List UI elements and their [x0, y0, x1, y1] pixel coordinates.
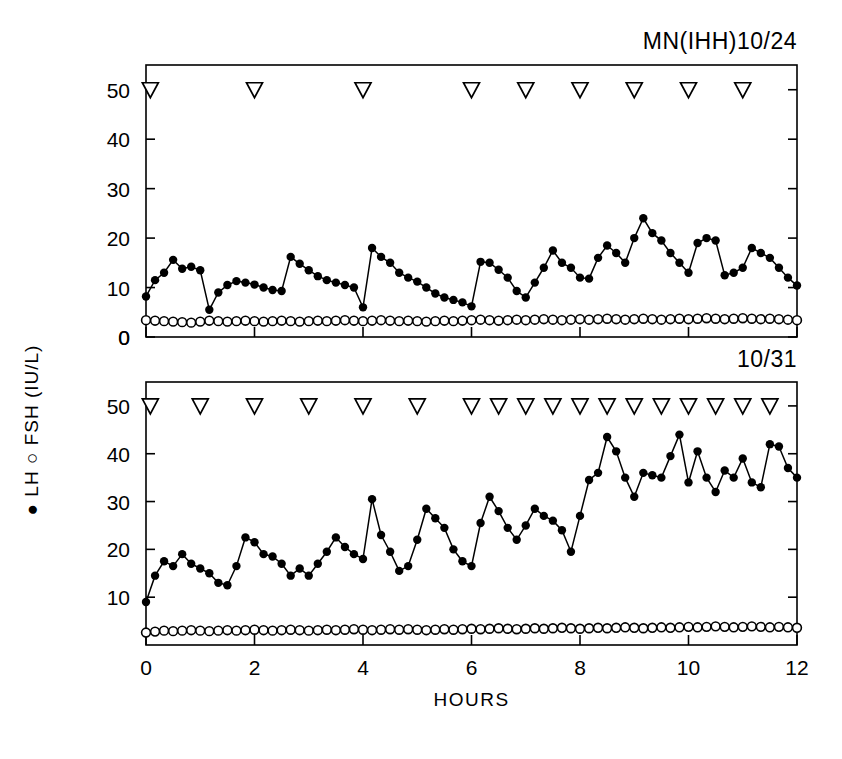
- fsh-data-point: [331, 316, 340, 325]
- lh-data-point: [431, 514, 439, 522]
- fsh-data-point: [702, 314, 711, 323]
- fsh-data-point: [160, 626, 169, 635]
- fsh-data-point: [223, 626, 232, 635]
- y-tick-label-zero: 0: [118, 326, 130, 349]
- lh-data-point: [142, 292, 150, 300]
- lh-data-point: [693, 447, 701, 455]
- fsh-data-point: [422, 626, 431, 635]
- lh-data-point: [702, 234, 710, 242]
- lh-data-point: [522, 293, 530, 301]
- fsh-data-point: [386, 625, 395, 634]
- pulse-marker-triangle: [142, 399, 158, 414]
- fsh-data-point: [359, 317, 368, 326]
- pulse-marker-triangle: [355, 399, 371, 414]
- fsh-data-point: [558, 623, 567, 632]
- lh-data-point: [395, 269, 403, 277]
- fsh-data-point: [304, 317, 313, 326]
- fsh-data-point: [702, 622, 711, 631]
- lh-data-point: [305, 266, 313, 274]
- fsh-data-point: [585, 315, 594, 324]
- lh-data-point: [766, 254, 774, 262]
- fsh-data-point: [476, 315, 485, 324]
- lh-data-point: [395, 567, 403, 575]
- lh-data-point: [485, 493, 493, 501]
- lh-data-point: [449, 296, 457, 304]
- fsh-data-point: [485, 316, 494, 325]
- fsh-data-point: [657, 623, 666, 632]
- x-tick-label: 12: [785, 656, 808, 679]
- lh-data-point: [531, 505, 539, 513]
- lh-data-point: [612, 447, 620, 455]
- lh-data-point: [268, 286, 276, 294]
- fsh-data-point: [404, 316, 413, 325]
- lh-data-point: [748, 244, 756, 252]
- fsh-data-point: [313, 316, 322, 325]
- lh-data-point: [295, 564, 303, 572]
- x-tick-label: 10: [677, 656, 700, 679]
- lh-data-point: [223, 281, 231, 289]
- lh-legend-text: LH: [21, 464, 42, 497]
- lh-data-point: [729, 269, 737, 277]
- y-tick-label: 40: [107, 128, 130, 151]
- fsh-data-point: [567, 315, 576, 324]
- lh-data-point: [503, 273, 511, 281]
- fsh-data-point: [377, 316, 386, 325]
- lh-data-point: [214, 579, 222, 587]
- fsh-data-point: [395, 317, 404, 326]
- lh-data-point: [151, 571, 159, 579]
- lh-data-point: [404, 562, 412, 570]
- fsh-data-point: [784, 623, 793, 632]
- pulse-marker-triangle: [545, 399, 561, 414]
- lh-data-point: [151, 276, 159, 284]
- lh-data-point: [576, 512, 584, 520]
- lh-data-point: [666, 452, 674, 460]
- lh-data-point: [205, 306, 213, 314]
- fsh-data-point: [350, 316, 359, 325]
- lh-data-point: [567, 264, 575, 272]
- fsh-data-point: [368, 316, 377, 325]
- fsh-data-point: [594, 315, 603, 324]
- pulse-marker-triangle: [409, 399, 425, 414]
- fsh-data-point: [503, 316, 512, 325]
- lh-data-point: [757, 483, 765, 491]
- lh-data-point: [422, 505, 430, 513]
- fsh-data-point: [711, 622, 720, 631]
- lh-data-point: [494, 507, 502, 515]
- fsh-data-point: [241, 316, 250, 325]
- pulse-marker-triangle: [681, 83, 697, 98]
- fsh-data-point: [214, 317, 223, 326]
- lh-data-point: [169, 256, 177, 264]
- x-tick-label: 8: [574, 656, 586, 679]
- lh-data-point: [793, 281, 801, 289]
- pulse-marker-triangle: [518, 83, 534, 98]
- lh-data-point: [160, 557, 168, 565]
- lh-data-point: [178, 265, 186, 273]
- pulse-marker-triangle: [626, 83, 642, 98]
- lh-data-point: [540, 264, 548, 272]
- lh-data-point: [793, 473, 801, 481]
- pulse-marker-triangle: [491, 399, 507, 414]
- fsh-data-point: [765, 623, 774, 632]
- lh-data-point: [720, 466, 728, 474]
- fsh-data-point: [359, 625, 368, 634]
- fsh-data-point: [467, 624, 476, 633]
- lh-data-point: [757, 249, 765, 257]
- panel-top: [142, 65, 802, 337]
- lh-data-point: [512, 287, 520, 295]
- x-tick-label: 2: [249, 656, 261, 679]
- pulse-marker-triangle: [301, 399, 317, 414]
- fsh-data-point: [485, 624, 494, 633]
- fsh-data-point: [205, 316, 214, 325]
- fsh-data-point: [720, 622, 729, 631]
- fsh-data-point: [793, 316, 802, 325]
- fsh-data-point: [268, 626, 277, 635]
- lh-data-point: [323, 276, 331, 284]
- lh-series-line: [146, 435, 797, 602]
- fsh-data-point: [775, 622, 784, 631]
- lh-data-point: [350, 550, 358, 558]
- pulse-marker-triangle: [762, 399, 778, 414]
- lh-data-point: [458, 557, 466, 565]
- fsh-data-point: [494, 316, 503, 325]
- lh-data-point: [404, 273, 412, 281]
- fsh-data-point: [160, 317, 169, 326]
